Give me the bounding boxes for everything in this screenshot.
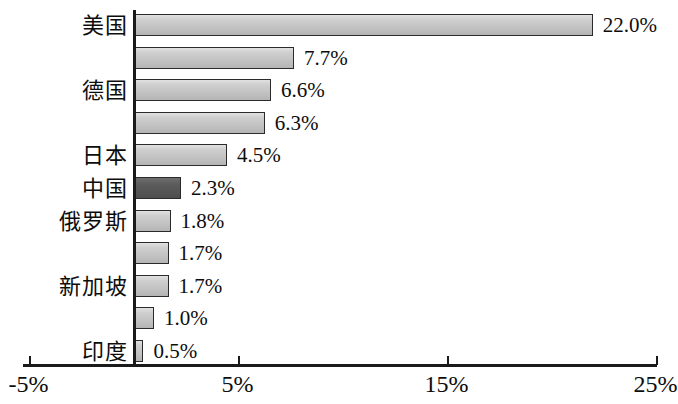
- x-axis-tick-label: 25%: [634, 371, 678, 397]
- bar-value-label: 1.7%: [179, 275, 223, 296]
- category-label: 美国: [18, 15, 128, 37]
- bar: [133, 144, 227, 166]
- zero-axis-line: [133, 10, 136, 365]
- bar-value-label: 6.6%: [281, 80, 325, 101]
- category-label: 日本: [18, 145, 128, 167]
- bar-row: 1.7%: [133, 275, 672, 297]
- bar: [133, 112, 265, 134]
- bar-row: 22.0%: [133, 14, 672, 36]
- x-axis-tick-label: -5%: [9, 371, 49, 397]
- x-axis-tick: [656, 356, 658, 365]
- category-label: 新加坡: [18, 276, 128, 298]
- bar-value-label: 6.3%: [275, 112, 319, 133]
- bar-value-label: 0.5%: [153, 341, 197, 362]
- x-axis-tick: [238, 356, 240, 365]
- bar-value-label: 1.7%: [179, 243, 223, 264]
- category-label: 中国: [18, 178, 128, 200]
- x-axis-line: [23, 364, 657, 367]
- category-label-column: 美国德国日本中国俄罗斯新加坡印度: [10, 0, 128, 360]
- bar-row: 7.7%: [133, 47, 672, 69]
- category-label: 俄罗斯: [18, 211, 128, 233]
- x-axis-tick-label: 15%: [425, 371, 469, 397]
- category-label: 印度: [18, 341, 128, 363]
- bar-row: 6.6%: [133, 79, 672, 101]
- bar-value-label: 22.0%: [603, 15, 657, 36]
- bar-value-label: 7.7%: [304, 47, 348, 68]
- bar-row: 1.7%: [133, 242, 672, 264]
- plot-area: 22.0%7.7%6.6%6.3%4.5%2.3%1.8%1.7%1.7%1.0…: [133, 0, 672, 360]
- bar: [133, 47, 294, 69]
- category-label: 德国: [18, 80, 128, 102]
- bar-highlighted: [133, 177, 181, 199]
- bar-row: 0.5%: [133, 340, 672, 362]
- bar-row: 2.3%: [133, 177, 672, 199]
- bar-row: 4.5%: [133, 144, 672, 166]
- bar: [133, 14, 593, 36]
- bar-value-label: 2.3%: [191, 178, 235, 199]
- bar-row: 6.3%: [133, 112, 672, 134]
- x-axis-tick: [29, 356, 31, 365]
- bar: [133, 307, 154, 329]
- x-axis-tick-label: 5%: [222, 371, 254, 397]
- bar: [133, 79, 271, 101]
- x-axis-tick: [447, 356, 449, 365]
- bar-value-label: 1.0%: [164, 308, 208, 329]
- bar-row: 1.0%: [133, 307, 672, 329]
- bar-value-label: 1.8%: [181, 210, 225, 231]
- bar-row: 1.8%: [133, 210, 672, 232]
- bar: [133, 275, 169, 297]
- bar-value-label: 4.5%: [237, 145, 281, 166]
- bar: [133, 242, 169, 264]
- bar: [133, 210, 171, 232]
